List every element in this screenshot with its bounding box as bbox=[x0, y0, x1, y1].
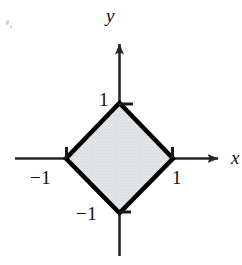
y-axis-label: y bbox=[106, 6, 114, 25]
region-group bbox=[66, 103, 173, 213]
x-axis-label: x bbox=[231, 148, 239, 167]
tick-label-x-positive-one: 1 bbox=[172, 168, 182, 187]
scan-artifact-speck bbox=[10, 25, 12, 28]
tick-label-y-positive-one: 1 bbox=[99, 90, 109, 109]
tick-label-y-negative-one: −1 bbox=[76, 204, 97, 223]
coordinate-plane-graphic bbox=[0, 0, 242, 265]
tick-label-x-negative-one: −1 bbox=[30, 168, 51, 187]
shaded-region-fill bbox=[66, 103, 173, 213]
figure-container: y x −1 1 1 −1 bbox=[0, 0, 242, 265]
